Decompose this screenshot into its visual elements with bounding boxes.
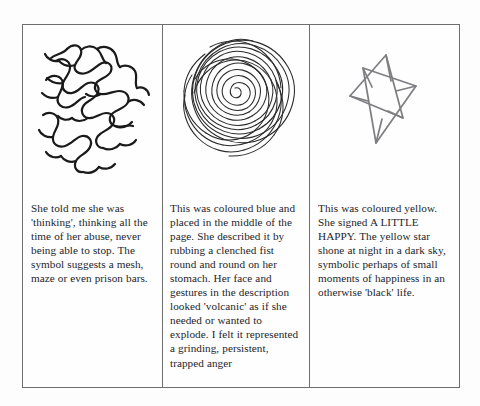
panel-volcanic-drawing-slot [163, 25, 309, 195]
panel-thinking-drawing-slot [23, 25, 162, 195]
panel-happy-drawing-slot [310, 25, 457, 195]
panel-thinking: She told me she was 'thinking', thinking… [23, 25, 162, 387]
mesh-maze-scribble-drawing [23, 25, 162, 195]
panel-volcanic-caption: This was coloured blue and placed in the… [163, 195, 309, 387]
spiral-scribble-drawing [163, 25, 311, 195]
three-panel-figure-frame: She told me she was 'thinking', thinking… [22, 24, 460, 388]
panel-happy-caption: This was coloured yellow. She signed A L… [310, 195, 457, 387]
figure-root: She told me she was 'thinking', thinking… [0, 0, 480, 406]
panel-thinking-caption: She told me she was 'thinking', thinking… [23, 195, 162, 387]
star-drawing [310, 25, 457, 195]
panel-volcanic: This was coloured blue and placed in the… [162, 25, 310, 387]
panel-happy: This was coloured yellow. She signed A L… [310, 25, 457, 387]
